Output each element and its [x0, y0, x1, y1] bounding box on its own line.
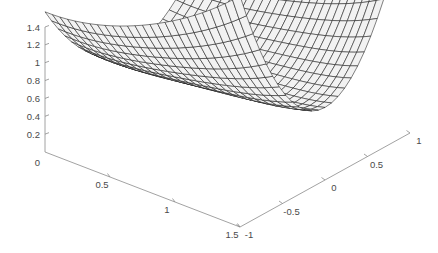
x-tick-label: 1.5	[225, 229, 238, 240]
z-axis-tick	[45, 26, 49, 28]
y-tick-label: -1	[245, 229, 253, 240]
x-tick-label: 1	[164, 204, 169, 215]
surface-plot-figure: 0.20.40.60.811.21.400.511.5-1-0.500.51	[0, 0, 438, 253]
y-axis-tick	[407, 131, 411, 134]
z-axis-tick	[45, 79, 49, 81]
z-tick-label: 0.4	[27, 111, 40, 122]
z-tick-label: 0.2	[27, 129, 40, 140]
surface-plot-canvas: 0.20.40.60.811.21.400.511.5-1-0.500.51	[0, 0, 438, 253]
y-tick-label: 0.5	[370, 159, 383, 170]
y-tick-label: -0.5	[283, 206, 299, 217]
x-axis-line	[45, 152, 240, 227]
z-tick-label: 0.8	[27, 75, 40, 86]
y-axis-tick	[364, 154, 368, 157]
z-tick-label: 0.6	[27, 93, 40, 104]
mesh-surface	[45, 0, 410, 111]
z-tick-label: 1.4	[27, 22, 40, 33]
x-tick-label: 0.5	[95, 179, 108, 190]
y-axis-tick	[279, 201, 283, 204]
z-axis-tick	[45, 115, 49, 117]
z-axis-tick	[45, 61, 49, 63]
y-axis-tick	[322, 178, 326, 181]
z-tick-label: 1	[35, 57, 40, 68]
axis-origin-label: 0	[35, 157, 40, 168]
z-axis-tick	[45, 133, 49, 135]
z-axis-tick	[45, 43, 49, 45]
y-tick-label: 1	[416, 135, 421, 146]
z-tick-label: 1.2	[27, 39, 40, 50]
y-tick-label: 0	[331, 182, 336, 193]
z-axis-tick	[45, 97, 49, 99]
